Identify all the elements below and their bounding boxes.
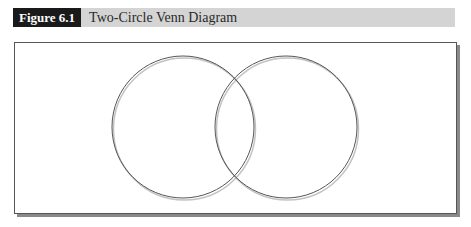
- venn-diagram: [0, 0, 471, 227]
